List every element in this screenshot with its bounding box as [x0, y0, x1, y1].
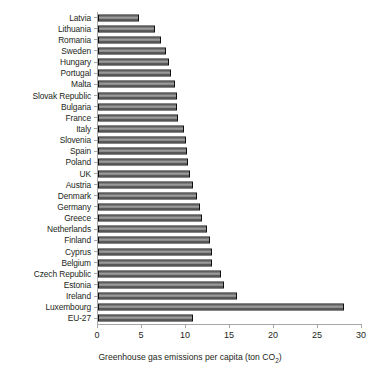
- category-label: EU-27: [68, 314, 91, 323]
- bar-row: Ireland: [97, 291, 361, 302]
- bar: [98, 36, 161, 43]
- bar: [98, 25, 155, 32]
- y-axis-tick: [94, 39, 97, 40]
- bar-row: Luxembourg: [97, 302, 361, 313]
- y-axis-tick: [94, 296, 97, 297]
- bar-row: Netherlands: [97, 224, 361, 235]
- bar: [98, 70, 171, 77]
- y-axis-tick: [94, 151, 97, 152]
- bar-row: Portugal: [97, 68, 361, 79]
- bar: [98, 103, 177, 110]
- x-axis-tick-label: 15: [224, 330, 234, 341]
- bar-row: Latvia: [97, 12, 361, 23]
- category-label: Estonia: [64, 280, 91, 289]
- x-axis-tick: [317, 324, 318, 328]
- bar-row: Hungary: [97, 57, 361, 68]
- category-label: Cyprus: [65, 247, 91, 256]
- y-axis-tick: [94, 62, 97, 63]
- x-axis-tick-label: 25: [312, 330, 322, 341]
- y-axis-tick: [94, 84, 97, 85]
- y-axis-tick: [94, 240, 97, 241]
- bar: [98, 59, 169, 66]
- y-axis-tick: [94, 50, 97, 51]
- bar: [98, 14, 139, 21]
- bar: [98, 125, 184, 132]
- bar-row: Slovak Republic: [97, 90, 361, 101]
- bar: [98, 148, 187, 155]
- category-label: Italy: [76, 124, 91, 133]
- y-axis-tick: [94, 162, 97, 163]
- category-label: UK: [80, 169, 91, 178]
- y-axis-tick: [94, 95, 97, 96]
- y-axis-tick: [94, 229, 97, 230]
- y-axis-tick: [94, 273, 97, 274]
- x-axis-tick-label: 10: [180, 330, 190, 341]
- y-axis-tick: [94, 73, 97, 74]
- bar-row: Greece: [97, 213, 361, 224]
- bar-row: Sweden: [97, 45, 361, 56]
- x-axis-tick: [185, 324, 186, 328]
- bar: [98, 281, 224, 288]
- y-axis-tick: [94, 173, 97, 174]
- y-axis-tick: [94, 307, 97, 308]
- bar: [98, 92, 177, 99]
- bar-row: Poland: [97, 157, 361, 168]
- category-label: Luxembourg: [45, 303, 91, 312]
- bar-row: Italy: [97, 123, 361, 134]
- bar: [98, 114, 178, 121]
- bar-row: Bulgaria: [97, 101, 361, 112]
- y-axis-tick: [94, 128, 97, 129]
- x-axis-tick-label: 5: [138, 330, 143, 341]
- y-axis-tick: [94, 284, 97, 285]
- bar-row: Austria: [97, 179, 361, 190]
- y-axis-tick: [94, 28, 97, 29]
- plot-area: LatviaLithuaniaRomaniaSwedenHungaryPortu…: [97, 12, 361, 324]
- category-label: Latvia: [69, 13, 91, 22]
- y-axis-tick: [94, 262, 97, 263]
- bar: [98, 270, 221, 277]
- category-label: Sweden: [61, 46, 91, 55]
- y-axis-tick: [94, 117, 97, 118]
- x-axis-title-tail: ): [279, 352, 282, 362]
- bar: [98, 81, 175, 88]
- bar: [98, 304, 344, 311]
- y-axis-tick: [94, 318, 97, 319]
- x-axis-title: Greenhouse gas emissions per capita (ton…: [0, 352, 380, 366]
- bar: [98, 181, 193, 188]
- category-label: Romania: [58, 35, 91, 44]
- bar: [98, 248, 212, 255]
- category-label: Lithuania: [58, 24, 91, 33]
- category-label: Belgium: [61, 258, 91, 267]
- x-axis-tick: [97, 324, 98, 328]
- bar-row: Spain: [97, 146, 361, 157]
- y-axis-tick: [94, 140, 97, 141]
- category-label: Ireland: [66, 292, 91, 301]
- bar: [98, 137, 186, 144]
- bar-row: Lithuania: [97, 23, 361, 34]
- bar-row: Germany: [97, 201, 361, 212]
- x-axis-tick-label: 20: [268, 330, 278, 341]
- x-axis-tick: [229, 324, 230, 328]
- bar-row: Belgium: [97, 257, 361, 268]
- bar-row: Cyprus: [97, 246, 361, 257]
- bar-row: France: [97, 112, 361, 123]
- bar-row: Slovenia: [97, 135, 361, 146]
- bar-row: Czech Republic: [97, 268, 361, 279]
- y-axis-tick: [94, 184, 97, 185]
- bar: [98, 170, 190, 177]
- category-label: Poland: [66, 158, 91, 167]
- bar: [98, 259, 212, 266]
- category-label: Slovenia: [60, 136, 91, 145]
- bar: [98, 315, 193, 322]
- category-label: Czech Republic: [34, 269, 91, 278]
- category-label: Portugal: [61, 69, 91, 78]
- x-axis-tick: [141, 324, 142, 328]
- bar-row: Malta: [97, 79, 361, 90]
- bar: [98, 226, 207, 233]
- bar-row: Denmark: [97, 190, 361, 201]
- x-axis-tick-label: 0: [94, 330, 99, 341]
- x-axis-tick-label: 30: [356, 330, 366, 341]
- bar-row: Estonia: [97, 279, 361, 290]
- bar: [98, 293, 237, 300]
- bar: [98, 47, 166, 54]
